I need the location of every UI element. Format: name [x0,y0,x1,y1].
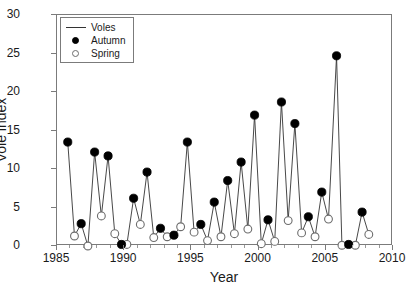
legend-entry-spring: Spring [61,47,135,60]
autumn-data-point [277,98,285,106]
autumn-data-point [264,216,272,224]
spring-data-point [325,215,333,223]
x-tick-minor [69,245,70,248]
x-tick-minor [379,245,380,248]
x-tick-minor [311,245,312,248]
spring-data-point [311,233,319,241]
autumn-data-point [130,194,138,202]
x-tick-minor [271,245,272,248]
y-axis: Vole index 051015202530 [0,0,56,259]
y-tick-label: 5 [13,201,20,213]
x-tick-mark [190,245,191,250]
x-tick-minor [352,245,353,248]
spring-data-point [97,212,105,220]
spring-data-point [204,237,212,245]
spring-data-point [217,233,225,241]
autumn-data-point [224,176,232,184]
legend-label-autumn: Autumn [91,35,125,46]
x-tick-minor [204,245,205,248]
x-tick-mark [56,245,57,250]
open-circle-key-icon [65,47,87,60]
legend-label-voles: Voles [91,22,115,33]
autumn-data-point [64,138,72,146]
spring-data-point [365,231,373,239]
spring-data-point [111,230,119,238]
y-tick-label: 25 [7,47,20,59]
autumn-data-point [197,220,205,228]
x-tick-mark [258,245,259,250]
y-tick-label: 15 [7,124,20,136]
autumn-data-point [210,198,218,206]
y-tick-label: 20 [7,85,20,97]
x-tick-minor [284,245,285,248]
x-tick-label: 1990 [110,252,137,264]
spring-data-point [190,228,198,236]
x-tick-minor [164,245,165,248]
spring-data-point [284,217,292,225]
x-tick-label: 2005 [311,252,338,264]
autumn-data-point [91,148,99,156]
x-tick-minor [137,245,138,248]
autumn-markers [64,52,367,249]
spring-data-point [136,221,144,229]
x-tick-minor [150,245,151,248]
legend: Voles Autumn Spring [60,17,134,63]
autumn-data-point [143,168,151,176]
autumn-data-point [170,231,178,239]
x-tick-minor [244,245,245,248]
spring-data-point [177,223,185,231]
voles-line [68,56,369,246]
legend-label-spring: Spring [91,48,120,59]
x-tick-minor [83,245,84,248]
x-tick-label: 2010 [379,252,406,264]
x-tick-minor [217,245,218,248]
autumn-data-point [250,111,258,119]
x-tick-minor [96,245,97,248]
x-tick-minor [365,245,366,248]
cut-off-title [0,0,420,7]
x-tick-minor [177,245,178,248]
x-tick-minor [110,245,111,248]
autumn-data-point [304,213,312,221]
autumn-data-point [77,220,85,228]
x-tick-label: 1985 [43,252,70,264]
spring-data-point [231,230,239,238]
spring-data-point [244,225,252,233]
x-tick-minor [338,245,339,248]
spring-data-point [298,229,306,237]
autumn-data-point [156,224,164,232]
autumn-data-point [183,138,191,146]
x-tick-label: 1995 [177,252,204,264]
x-tick-minor [298,245,299,248]
autumn-data-point [291,119,299,127]
autumn-data-point [318,188,326,196]
voles-polyline [68,56,369,246]
legend-entry-autumn: Autumn [61,34,135,47]
autumn-data-point [237,158,245,166]
autumn-data-point [104,152,112,160]
autumn-data-point [332,52,340,60]
x-tick-mark [123,245,124,250]
filled-circle-key-icon [65,34,87,47]
x-axis: Year 198519901995200020052010 [0,245,420,299]
spring-data-point [150,234,158,242]
x-tick-minor [231,245,232,248]
autumn-data-point [358,208,366,216]
line-key-icon [65,21,87,34]
vole-index-figure: Vole index 051015202530 Voles Autumn S [0,0,420,299]
legend-entry-voles: Voles [61,21,135,34]
x-tick-mark [325,245,326,250]
x-tick-label: 2000 [244,252,271,264]
x-tick-mark [392,245,393,250]
spring-data-point [71,232,79,240]
y-tick-label: 10 [7,162,20,174]
x-axis-title: Year [210,269,238,285]
y-tick-label: 30 [7,8,20,20]
